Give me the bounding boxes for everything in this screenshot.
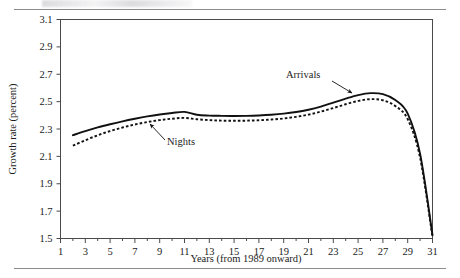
- series-line-arrivals: [73, 93, 433, 235]
- plot-frame: [61, 20, 433, 239]
- x-tick-label-1: 1: [58, 246, 63, 257]
- y-tick-label-1.9: 1.9: [39, 178, 52, 189]
- x-tick-label-9: 9: [157, 246, 162, 257]
- y-tick-label-2.5: 2.5: [39, 96, 52, 107]
- x-axis-ticks: [61, 239, 433, 244]
- y-axis-tick-labels: 1.51.71.92.12.32.52.72.93.1: [39, 14, 52, 244]
- annotation-label-nights: Nights: [167, 136, 195, 147]
- line-chart: 1.51.71.92.12.32.52.72.93.1 135791113151…: [0, 0, 460, 278]
- x-tick-label-29: 29: [402, 246, 413, 257]
- x-tick-label-21: 21: [303, 246, 314, 257]
- x-tick-label-3: 3: [83, 246, 88, 257]
- y-tick-label-2.3: 2.3: [39, 124, 52, 135]
- y-axis-ticks: [57, 20, 61, 239]
- annotation-leader-arrivals: [332, 81, 352, 93]
- y-tick-label-1.7: 1.7: [39, 206, 52, 217]
- y-tick-label-2.7: 2.7: [39, 69, 52, 80]
- annotation-leader-nights: [150, 124, 165, 140]
- x-tick-label-11: 11: [179, 246, 189, 257]
- x-tick-label-27: 27: [378, 246, 389, 257]
- x-tick-label-5: 5: [107, 246, 112, 257]
- y-tick-label-2.1: 2.1: [39, 151, 52, 162]
- x-axis-title: Years (from 1989 onward): [190, 253, 302, 265]
- x-tick-label-23: 23: [328, 246, 339, 257]
- y-tick-label-2.9: 2.9: [39, 41, 52, 52]
- x-tick-label-31: 31: [427, 246, 438, 257]
- y-tick-label-1.5: 1.5: [39, 233, 52, 244]
- y-axis-title: Growth rate (percent): [7, 83, 19, 174]
- series-annotations: ArrivalsNights: [150, 69, 352, 147]
- x-tick-label-25: 25: [353, 246, 364, 257]
- y-tick-label-3.1: 3.1: [39, 14, 52, 25]
- figure-root: 1.51.71.92.12.32.52.72.93.1 135791113151…: [0, 0, 460, 278]
- annotation-label-arrivals: Arrivals: [286, 69, 320, 80]
- x-tick-label-7: 7: [132, 246, 137, 257]
